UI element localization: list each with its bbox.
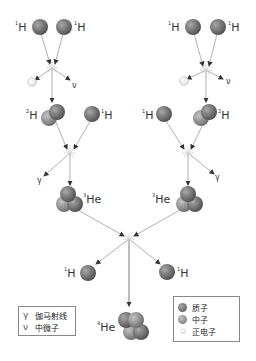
legend-item-proton: 质子 [174,301,239,313]
label-neutrino: ν [72,81,77,90]
label-h1: 1H [177,266,188,280]
label-h1: 1H [101,108,112,122]
label-h1: 1H [228,20,239,34]
legend-item-neutron: 中子 [174,313,239,325]
label-h2: 2H [26,108,37,122]
label-neutrino: ν [226,77,231,86]
gamma-symbol: γ [23,310,35,320]
label-h1: 1H [168,20,179,34]
label-he3: 3He [152,192,170,206]
helium4-icon [118,312,149,340]
legend-right: 质子 中子 正电子 [173,296,240,342]
label-he3: 3He [83,192,101,206]
neutrino-symbol: ν [23,322,35,332]
legend-item-neutrino: ν 中微子 [19,321,75,333]
proton-icon [178,303,187,312]
helium3-icon [56,186,203,212]
label-h1: 1H [64,266,75,280]
positron-icon [180,328,186,334]
label-h1: 1H [15,20,26,34]
label-gamma: γ [215,173,220,182]
fusion-star-icon [46,62,212,245]
legend-item-gamma: γ 伽马射线 [19,309,75,321]
label-he4: 4He [97,320,115,334]
deuteron-icon [41,104,217,126]
label-h1: 1H [74,20,85,34]
legend-left: γ 伽马射线 ν 中微子 [18,306,76,336]
label-h2: 2H [218,108,229,122]
label-gamma: γ [37,176,42,185]
label-h1: 1H [142,108,153,122]
legend-item-positron: 正电子 [174,325,239,337]
neutron-icon [178,315,187,324]
